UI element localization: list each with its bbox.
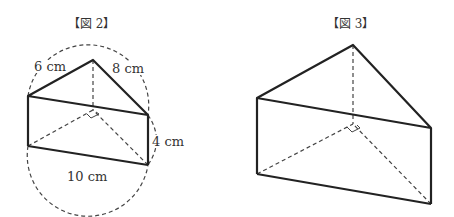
triangular-prism-diagram-3 <box>0 0 454 217</box>
